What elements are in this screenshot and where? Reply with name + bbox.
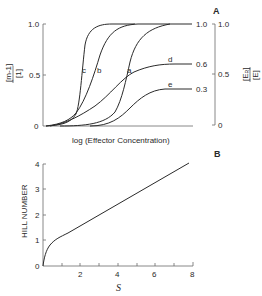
x-tick-6: 6 (152, 270, 157, 279)
panel-a-right-ylabel: [ER] [E] (241, 67, 260, 82)
ylabel-right-denominator: [E] (251, 70, 260, 80)
curve-label-a: a (127, 66, 132, 75)
left-tick-0: 0 (34, 122, 39, 131)
end-label-a: 1.0 (196, 20, 208, 29)
right-tick-0: 0 (218, 121, 223, 130)
figure: A 1.0 0.5 0 [m-1] [1] log (Effector Conc… (0, 0, 262, 296)
end-label-e: 0.3 (196, 85, 208, 94)
x-tick-4: 4 (115, 270, 120, 279)
y-tick-0: 0 (35, 262, 40, 271)
left-tick-05: 0.5 (29, 71, 41, 80)
curve-b (46, 24, 170, 126)
panel-a-xlabel: log (Effector Concentration) (72, 136, 170, 145)
ylabel-numerator: [m-1] (4, 64, 13, 82)
curve-c (46, 24, 135, 126)
y-tick-2: 2 (35, 211, 40, 220)
y-tick-3: 3 (35, 185, 40, 194)
panel-a-label: A (213, 6, 220, 16)
y-tick-1: 1 (35, 236, 40, 245)
x-tick-8: 8 (190, 270, 195, 279)
curve-e (90, 89, 192, 126)
curve-a (60, 24, 192, 126)
panel-b: B 4 3 2 1 0 HILL NUMBER 2 4 6 8 S (20, 149, 221, 293)
panel-b-xlabel: S (116, 282, 121, 293)
curve-label-c: c (82, 66, 86, 75)
panel-b-ylabel: HILL NUMBER (20, 184, 29, 238)
end-label-d: 0.6 (196, 60, 208, 69)
ylabel-denominator: [1] (14, 69, 23, 78)
curve-d (50, 64, 192, 126)
panel-a-left-ylabel: [m-1] [1] (4, 64, 23, 83)
curve-label-d: d (168, 55, 172, 64)
right-tick-1: 1.0 (218, 20, 230, 29)
hill-number-curve (43, 163, 189, 266)
right-tick-05: 0.5 (218, 70, 230, 79)
x-tick-2: 2 (78, 270, 83, 279)
left-tick-1: 1.0 (28, 20, 40, 29)
curve-label-b: b (97, 66, 102, 75)
curve-label-e: e (168, 80, 173, 89)
panel-b-label: B (214, 149, 221, 159)
ylabel-right-numerator: [ER] (241, 68, 250, 81)
panel-a: A 1.0 0.5 0 [m-1] [1] log (Effector Conc… (4, 6, 260, 145)
y-tick-4: 4 (35, 160, 40, 169)
